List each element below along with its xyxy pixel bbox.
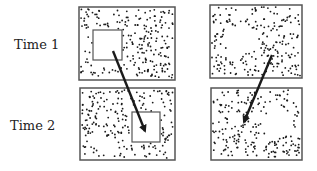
panel-left-time1 (79, 7, 175, 80)
panel-right-time2 (211, 88, 302, 160)
dot-panels (79, 5, 302, 160)
target-square (132, 112, 160, 142)
panel-left-time2 (80, 88, 175, 160)
diagram-canvas (0, 0, 317, 171)
panel-right-time1 (210, 5, 302, 78)
target-square (93, 30, 122, 60)
